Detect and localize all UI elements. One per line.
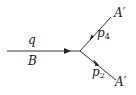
arrow-icon-upper	[90, 35, 94, 41]
arrow-icon-incoming	[64, 48, 71, 54]
label-a-prime-lower: A′	[114, 75, 127, 89]
label-p4: p4	[97, 26, 110, 41]
label-p2: p2	[92, 65, 105, 80]
label-q: q	[28, 33, 36, 47]
feynman-diagram: q B p4 A′ p2 A′	[0, 0, 136, 95]
label-b: B	[27, 54, 37, 68]
label-a-prime-upper: A′	[113, 6, 126, 20]
